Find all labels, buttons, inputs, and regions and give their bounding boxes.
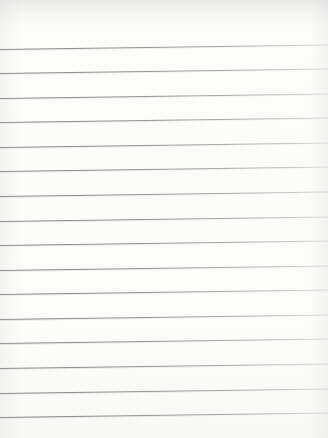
rule-line bbox=[0, 167, 328, 172]
rule-line bbox=[0, 93, 328, 98]
rule-line bbox=[0, 142, 328, 147]
rule-line bbox=[0, 241, 328, 246]
rule-line bbox=[0, 314, 328, 319]
rule-line bbox=[0, 118, 328, 123]
rule-line bbox=[0, 388, 328, 393]
rule-line bbox=[0, 265, 328, 270]
rule-line bbox=[0, 69, 328, 74]
rule-line bbox=[0, 339, 328, 344]
rule-line bbox=[0, 44, 328, 49]
lined-paper-sheet bbox=[0, 0, 328, 438]
rule-line bbox=[0, 363, 328, 368]
rule-line bbox=[0, 290, 328, 295]
rule-line bbox=[0, 413, 328, 418]
rule-line bbox=[0, 191, 328, 196]
rule-lines-group bbox=[0, 0, 328, 438]
rule-line bbox=[0, 216, 328, 221]
